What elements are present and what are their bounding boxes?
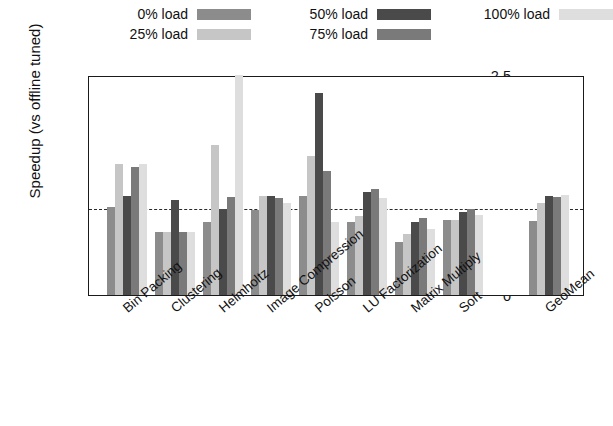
bar (561, 195, 569, 295)
bar (529, 221, 537, 295)
bar (371, 189, 379, 295)
bar (545, 196, 553, 295)
bar (171, 200, 179, 295)
bar (363, 192, 371, 295)
bar (227, 197, 235, 295)
x-axis-labels: Bin PackingClusteringHelmholtzImage Comp… (0, 0, 607, 130)
bar (553, 197, 561, 295)
bar (115, 164, 123, 295)
bar (219, 209, 227, 295)
bar (139, 164, 147, 295)
bar (131, 167, 139, 295)
bar (537, 203, 545, 295)
bar (267, 196, 275, 295)
bar (323, 171, 331, 295)
bar (275, 198, 283, 295)
bar (123, 196, 131, 295)
bar (379, 198, 387, 295)
bar (459, 212, 467, 295)
bar (179, 232, 187, 295)
bar (107, 207, 115, 295)
